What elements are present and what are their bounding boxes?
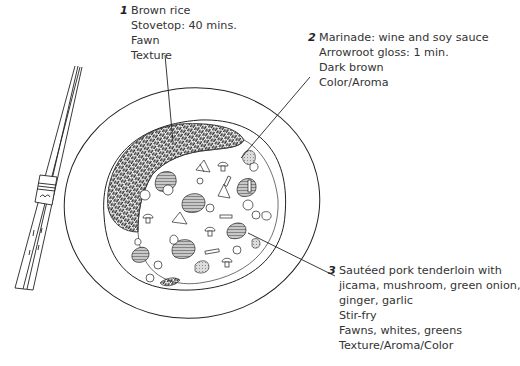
label-number: 1 — [120, 3, 128, 18]
label-line: Dark brown — [319, 60, 489, 75]
label-brown-rice: 1 Brown rice Stovetop: 40 mins. Fawn Tex… — [131, 3, 237, 63]
label-marinade: 2 Marinade: wine and soy sauce Arrowroot… — [319, 30, 489, 90]
label-line: Texture/Aroma/Color — [339, 338, 520, 353]
label-line: jicama, mushroom, green onion, — [339, 278, 520, 293]
label-line: Brown rice — [131, 3, 237, 18]
label-line: Stovetop: 40 mins. — [131, 18, 237, 33]
label-number: 3 — [328, 263, 336, 278]
label-line: Arrowroot gloss: 1 min. — [319, 45, 489, 60]
label-line: Texture — [131, 48, 237, 63]
label-line: Stir-fry — [339, 308, 520, 323]
label-line: Marinade: wine and soy sauce — [319, 30, 489, 45]
label-line: Sautéed pork tenderloin with — [339, 263, 520, 278]
label-line: Fawn — [131, 33, 237, 48]
chopsticks-icon — [15, 66, 82, 290]
label-number: 2 — [308, 30, 316, 45]
label-line: ginger, garlic — [339, 293, 520, 308]
label-line: Color/Aroma — [319, 75, 489, 90]
label-line: Fawns, whites, greens — [339, 323, 520, 338]
label-pork-stir-fry: 3 Sautéed pork tenderloin with jicama, m… — [339, 263, 520, 353]
